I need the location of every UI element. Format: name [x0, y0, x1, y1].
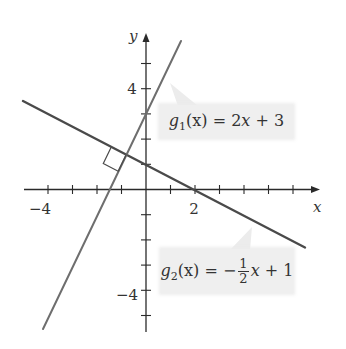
g1-callout: g1(x) = 2x + 3 — [160, 105, 293, 138]
g1-eq: = 2 — [208, 111, 242, 130]
g1-arg: (x) — [186, 111, 208, 130]
chart-canvas: x −4 2 y 4 −4 — [0, 0, 346, 349]
g2-subscript: 2 — [171, 270, 178, 283]
g1-rest: + 3 — [250, 111, 284, 130]
g2-fraction: 12 — [238, 257, 248, 286]
g2-frac-numerator: 1 — [238, 257, 248, 272]
g2-frac-denominator: 2 — [239, 272, 247, 286]
y-axis-arrow-icon — [143, 33, 150, 42]
g1-fname: g — [169, 111, 179, 130]
g1-callout-pointer — [170, 83, 198, 106]
g2-rest: + 1 — [260, 261, 294, 280]
g2-eq: = − — [199, 261, 236, 280]
g2-var: x — [251, 261, 260, 280]
x-axis-arrow-icon — [311, 186, 320, 193]
x-tick-label-neg4: −4 — [29, 200, 51, 218]
x-axis: x −4 2 — [24, 185, 322, 218]
y-axis: y 4 −4 — [116, 27, 151, 332]
g2-callout-pointer — [230, 227, 252, 250]
right-angle-marker — [103, 147, 126, 172]
y-axis-label: y — [128, 27, 138, 45]
g2-fname: g — [161, 261, 171, 280]
y-tick-label-4: 4 — [127, 80, 137, 98]
x-tick-label-2: 2 — [189, 200, 199, 218]
x-axis-label: x — [313, 198, 322, 216]
g2-equation: g2(x) = −12x + 1 — [161, 257, 294, 286]
g2-arg: (x) — [178, 261, 200, 280]
g1-equation: g1(x) = 2x + 3 — [169, 111, 284, 133]
g2-callout: g2(x) = −12x + 1 — [161, 249, 293, 293]
y-tick-label-neg4: −4 — [116, 286, 138, 304]
